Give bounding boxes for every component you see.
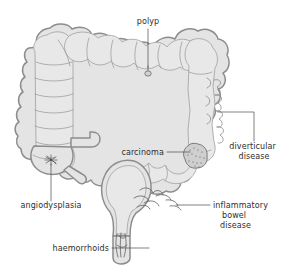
anal-canal (113, 233, 130, 264)
colon-pathology-diagram: polyp diverticular disease carcinoma inf… (0, 0, 297, 279)
label-diverticular-disease-line2: disease (238, 152, 269, 161)
ibd-ulcer (156, 195, 171, 200)
label-diverticular-disease: diverticular disease (229, 142, 278, 161)
label-inflammatory-bowel-disease: inflammatory bowel disease (213, 201, 271, 230)
label-angiodysplasia: angiodysplasia (20, 201, 81, 210)
diverticulum (216, 111, 223, 127)
polyp-head (145, 71, 151, 76)
label-polyp: polyp (137, 17, 160, 26)
angiodysplasia-centre (50, 159, 52, 161)
rectum (102, 160, 152, 236)
diagram-canvas: polyp diverticular disease carcinoma inf… (0, 0, 297, 279)
carcinoma-lesion (184, 143, 208, 168)
label-carcinoma: carcinoma (121, 148, 164, 157)
label-ibd-line1: inflammatory (213, 201, 268, 210)
diverticulum (217, 127, 224, 143)
rectum-lumen (106, 166, 146, 234)
ibd-ulcer (170, 206, 181, 210)
descending-colon-lumen (185, 39, 217, 163)
leader-diverticular-disease (218, 112, 254, 141)
label-ibd-line3: disease (220, 221, 251, 230)
label-diverticular-disease-line1: diverticular (229, 142, 276, 151)
label-haemorrhoids: haemorrhoids (52, 244, 109, 253)
carcinoma-mass (184, 143, 208, 168)
anal-canal-wall (113, 236, 130, 264)
label-ibd-line2: bowel (222, 211, 246, 220)
